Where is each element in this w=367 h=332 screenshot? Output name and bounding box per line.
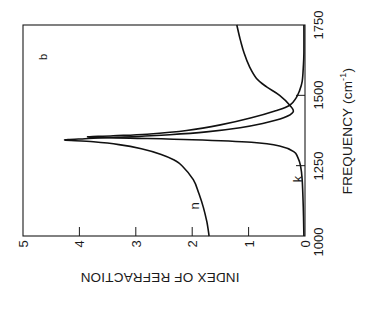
curve-label-n: n xyxy=(187,202,202,209)
curve-n xyxy=(65,25,294,236)
y-tick-label: 4 xyxy=(72,240,87,247)
y-axis-title-text: INDEX OF REFRACTION xyxy=(80,270,239,285)
plot-frame xyxy=(23,25,305,236)
y-tick-label: 1 xyxy=(241,240,256,247)
x-axis-title-text: FREQUENCY (cm xyxy=(340,81,355,194)
y-tick-label: 5 xyxy=(16,240,31,247)
y-axis-title: INDEX OF REFRACTION xyxy=(80,270,239,285)
y-tick-label: 3 xyxy=(128,240,143,247)
panel-label-b: b xyxy=(37,54,49,60)
x-axis-title-exponent: -1 xyxy=(338,72,348,80)
x-tick-label: 1000 xyxy=(311,228,326,257)
x-tick-label: 1250 xyxy=(311,151,326,180)
curve-label-k: k xyxy=(290,176,305,183)
y-tick-label: 2 xyxy=(185,240,200,247)
x-axis-title-close: ) xyxy=(340,68,355,73)
x-tick-label: 1500 xyxy=(311,81,326,110)
x-tick-label: 1750 xyxy=(311,11,326,40)
x-axis-title: FREQUENCY (cm-1) xyxy=(338,68,355,194)
y-axis-ticks xyxy=(79,227,248,236)
